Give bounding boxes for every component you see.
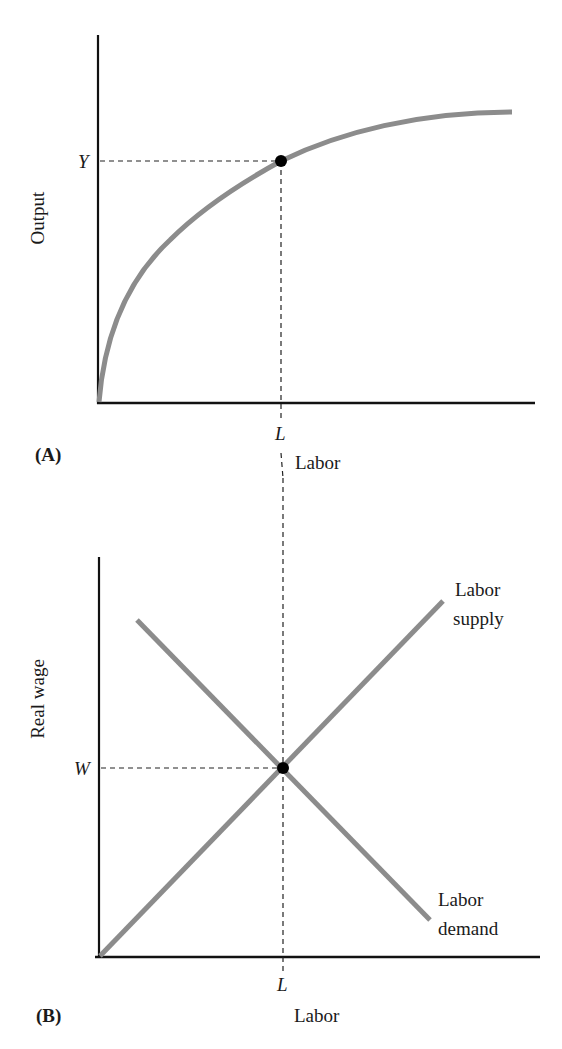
cross-panel-guide bbox=[281, 453, 283, 478]
panel-a-xlabel: Labor bbox=[295, 452, 341, 473]
panel-a-xtick: L bbox=[274, 423, 286, 444]
panel-a-ytick: Y bbox=[78, 151, 91, 172]
panel-b-ytick: W bbox=[74, 758, 92, 779]
supply-label-line1: Labor bbox=[455, 579, 501, 600]
figure: Y L Output Labor (A) W L Real wage Labor… bbox=[0, 0, 562, 1049]
panel-a-tag: (A) bbox=[35, 444, 61, 466]
panel-b-ylabel: Real wage bbox=[27, 659, 48, 739]
production-function-curve bbox=[99, 112, 512, 402]
panel-a-ylabel: Output bbox=[27, 191, 48, 245]
supply-label-line2: supply bbox=[453, 608, 504, 629]
equilibrium-point bbox=[277, 762, 289, 774]
labor-supply-line bbox=[100, 601, 443, 956]
panel-a-point bbox=[275, 155, 287, 167]
panel-b: W L Real wage Labor (B) Labor supply Lab… bbox=[27, 478, 540, 1027]
panel-a: Y L Output Labor (A) bbox=[27, 35, 535, 478]
panel-b-xlabel: Labor bbox=[294, 1005, 340, 1026]
demand-label-line2: demand bbox=[438, 918, 499, 939]
demand-label-line1: Labor bbox=[438, 889, 484, 910]
panel-b-xtick: L bbox=[276, 974, 288, 995]
panel-b-tag: (B) bbox=[36, 1005, 61, 1027]
